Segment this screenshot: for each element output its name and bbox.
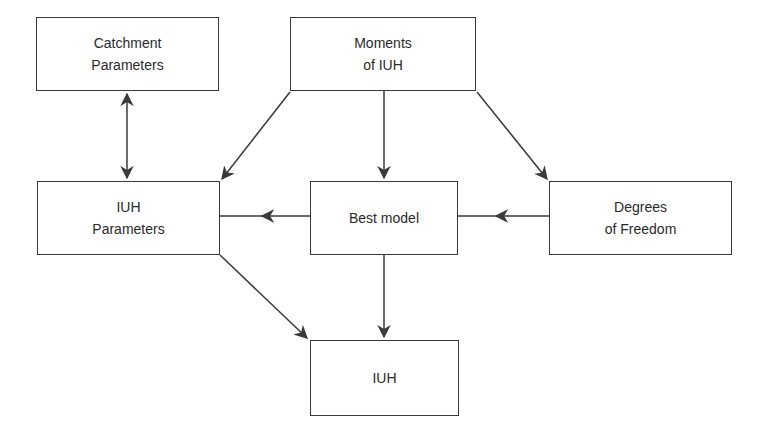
node-iuh: IUH (310, 340, 459, 416)
node-moments-of-iuh: Moments of IUH (290, 17, 476, 91)
node-label-line: IUH (92, 196, 164, 218)
edge-iuh-params-iuh (220, 255, 307, 338)
edge-moments-degrees (477, 92, 547, 179)
node-label-line: Degrees (605, 196, 677, 218)
node-label-line: of Freedom (605, 218, 677, 240)
node-degrees-of-freedom: Degrees of Freedom (549, 181, 732, 255)
node-label-line: of IUH (354, 54, 412, 76)
node-label-line: Best model (349, 207, 419, 229)
node-catchment-parameters: Catchment Parameters (36, 17, 219, 91)
node-label-line: IUH (372, 367, 396, 389)
node-label-line: Parameters (91, 54, 163, 76)
node-best-model: Best model (310, 181, 458, 255)
node-iuh-parameters: IUH Parameters (37, 181, 220, 255)
edge-moments-iuh-params (222, 92, 290, 179)
node-label-line: Catchment (91, 32, 163, 54)
node-label-line: Moments (354, 32, 412, 54)
node-label-line: Parameters (92, 218, 164, 240)
